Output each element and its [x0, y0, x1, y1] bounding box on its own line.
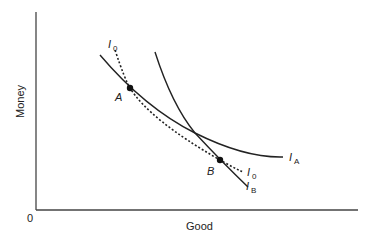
point-b-label: B: [207, 165, 214, 177]
point-b: [217, 157, 223, 163]
svg-text:I: I: [108, 38, 111, 50]
label-i0-top: I 0: [108, 38, 118, 53]
svg-text:A: A: [294, 157, 300, 166]
curve-i0: [115, 50, 243, 172]
svg-text:B: B: [251, 186, 256, 195]
label-ib: I B: [246, 180, 256, 195]
svg-text:0: 0: [113, 44, 118, 53]
y-axis-label: Money: [14, 84, 26, 118]
svg-text:I: I: [289, 151, 292, 163]
x-axis-label: Good: [186, 220, 213, 232]
curve-ia: [100, 55, 283, 157]
svg-text:I: I: [247, 166, 250, 178]
point-a-label: A: [114, 91, 122, 103]
point-a: [127, 85, 133, 91]
origin-label: 0: [27, 212, 33, 224]
indifference-curve-diagram: 0 Good Money A B I 0 I A I 0 I B: [0, 0, 376, 239]
label-i0-bottom: I 0: [247, 166, 257, 181]
svg-text:I: I: [246, 180, 249, 192]
label-ia: I A: [289, 151, 300, 166]
svg-text:0: 0: [252, 172, 257, 181]
curve-ib: [155, 52, 248, 187]
